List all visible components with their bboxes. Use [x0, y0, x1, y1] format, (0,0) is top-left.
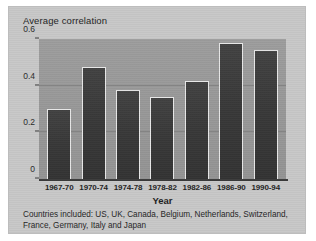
bar-slot — [42, 39, 76, 179]
caption-line-2: France, Germany, Italy and Japan — [23, 221, 295, 232]
x-axis-tick-labels: 1967-701970-741974-781978-821982-861986-… — [39, 183, 286, 192]
bar-slot — [76, 39, 110, 179]
bar — [150, 97, 174, 179]
bar-slot — [111, 39, 145, 179]
figure-panel: Average correlation 00.20.40.6 1967-7019… — [8, 6, 306, 234]
bar-slot — [180, 39, 214, 179]
bar-slot — [145, 39, 179, 179]
bar — [185, 81, 209, 179]
bar — [47, 109, 71, 179]
x-axis-tick-label: 1986-90 — [214, 183, 248, 192]
x-axis-tick-label: 1990-94 — [249, 183, 283, 192]
x-axis-tick-label: 1982-86 — [180, 183, 214, 192]
x-axis-tick-label: 1967-70 — [42, 183, 76, 192]
x-axis-tick-label: 1974-78 — [111, 183, 145, 192]
x-axis-tick-label: 1978-82 — [145, 183, 179, 192]
y-axis-tick-label: 0.4 — [23, 71, 35, 81]
plot-area: 00.20.40.6 — [39, 39, 286, 179]
bar-slot — [214, 39, 248, 179]
y-axis-tick-label: 0.6 — [23, 24, 35, 34]
y-axis-label: Average correlation — [23, 15, 107, 26]
x-axis-label: Year — [39, 195, 286, 206]
chart-caption: Countries included: US, UK, Canada, Belg… — [23, 210, 295, 231]
bar — [82, 67, 106, 179]
bar — [219, 43, 243, 180]
bar — [254, 50, 278, 180]
x-axis-line — [39, 179, 288, 181]
bar-series — [39, 39, 286, 179]
bar — [116, 90, 140, 179]
x-axis-tick-label: 1970-74 — [76, 183, 110, 192]
y-axis-tick-label: 0 — [30, 164, 35, 174]
caption-line-1: Countries included: US, UK, Canada, Belg… — [23, 210, 295, 221]
y-axis-tick-label: 0.2 — [23, 117, 35, 127]
bar-slot — [249, 39, 283, 179]
